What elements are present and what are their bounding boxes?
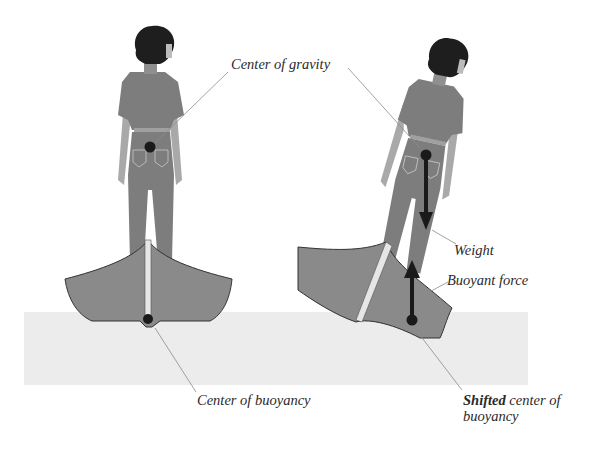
shifted-emphasis: Shifted bbox=[463, 392, 506, 408]
buoyant-force-label: Buoyant force bbox=[447, 272, 528, 289]
center-of-gravity-dot-left bbox=[145, 142, 156, 153]
water bbox=[24, 312, 528, 385]
shifted-label-rest: center of bbox=[506, 392, 561, 408]
weight-label: Weight bbox=[454, 242, 494, 259]
center-of-buoyancy-label: Center of buoyancy bbox=[197, 392, 311, 409]
center-of-gravity-label: Center of gravity bbox=[231, 56, 330, 73]
shifted-center-of-buoyancy-dot bbox=[407, 315, 418, 326]
center-of-buoyancy-dot bbox=[143, 314, 153, 324]
center-of-gravity-dot-right bbox=[421, 150, 432, 161]
shifted-label-line2: buoyancy bbox=[463, 408, 519, 424]
shifted-center-of-buoyancy-label: Shifted center of buoyancy bbox=[463, 392, 560, 424]
upright-boat bbox=[65, 240, 232, 327]
